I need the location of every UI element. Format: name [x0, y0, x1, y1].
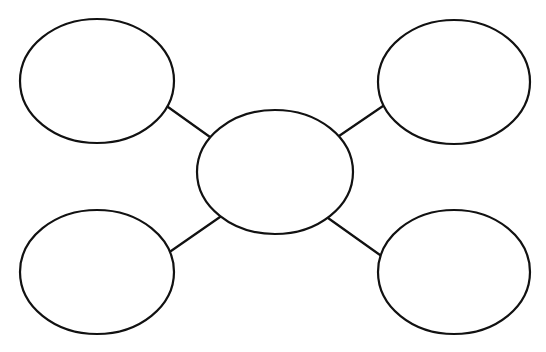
top-left-ellipse[interactable]	[20, 19, 174, 143]
top-right-bubble[interactable]	[378, 20, 530, 144]
connector-top-left	[168, 107, 210, 137]
connector-bottom-right	[328, 218, 380, 255]
diagram-svg	[0, 0, 546, 352]
top-left-bubble[interactable]	[20, 19, 174, 143]
connector-top-right	[339, 106, 383, 136]
bottom-right-ellipse[interactable]	[378, 210, 530, 334]
center-ellipse[interactable]	[197, 110, 353, 234]
bottom-left-bubble[interactable]	[20, 210, 174, 334]
bottom-right-bubble[interactable]	[378, 210, 530, 334]
top-right-ellipse[interactable]	[378, 20, 530, 144]
bubble-map-diagram	[0, 0, 546, 352]
center-bubble[interactable]	[197, 110, 353, 234]
bubbles	[20, 19, 530, 334]
bottom-left-ellipse[interactable]	[20, 210, 174, 334]
connector-bottom-left	[171, 217, 220, 251]
